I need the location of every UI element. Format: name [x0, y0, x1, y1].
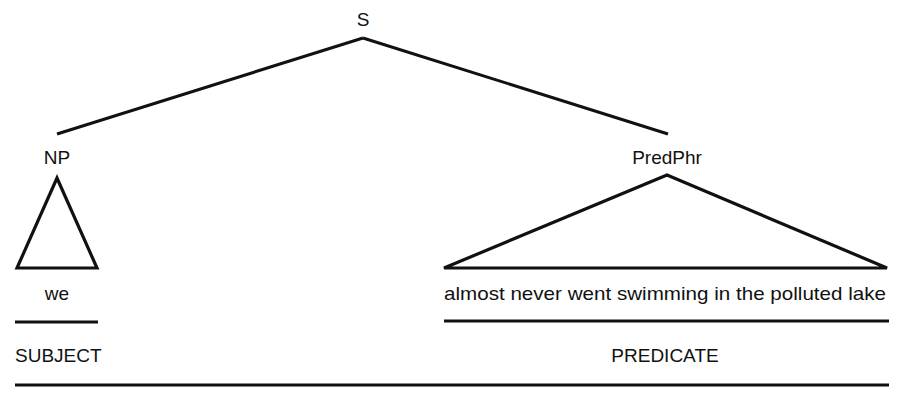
predphr-leaf-text: almost never went swimming in the pollut… — [444, 283, 886, 304]
np-node-label: NP — [44, 147, 70, 168]
branch-s-to-np — [57, 38, 363, 134]
subject-role-label: SUBJECT — [15, 345, 102, 366]
root-node-label: S — [357, 9, 370, 30]
np-leaf-text: we — [44, 283, 69, 304]
predphr-node-label: PredPhr — [632, 147, 702, 168]
np-triangle — [17, 178, 97, 268]
syntax-tree-diagram: S NP we SUBJECT PredPhr almost never wen… — [0, 0, 916, 400]
predicate-role-label: PREDICATE — [611, 345, 718, 366]
branch-s-to-predphr — [363, 38, 668, 134]
predphr-triangle — [444, 175, 887, 268]
